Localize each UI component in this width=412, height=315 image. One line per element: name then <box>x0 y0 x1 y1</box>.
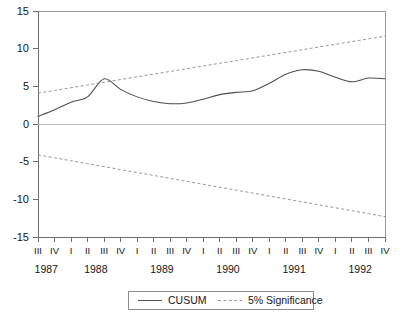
x-year-label: 1990 <box>216 263 240 275</box>
x-quarter-label: IV <box>182 245 192 256</box>
x-year-label: 1988 <box>84 263 108 275</box>
data-series-layer <box>38 36 385 217</box>
x-quarter-label: IV <box>248 245 258 256</box>
x-quarter-label: III <box>100 245 108 256</box>
y-tick-label: 15 <box>17 5 29 17</box>
x-quarter-label: III <box>365 245 373 256</box>
x-axis-year-labels: 198719881989199019911992 <box>35 263 372 275</box>
x-year-label: 1987 <box>35 263 59 275</box>
series-cusum <box>38 70 385 117</box>
y-tick-label: -10 <box>13 193 29 205</box>
x-quarter-label: III <box>166 245 174 256</box>
x-quarter-label: IV <box>50 245 60 256</box>
x-quarter-label: IV <box>116 245 126 256</box>
series-5-significance <box>38 36 385 93</box>
x-quarter-label: II <box>85 245 90 256</box>
y-axis-ticks <box>33 11 38 237</box>
x-quarter-label: II <box>349 245 354 256</box>
y-tick-label: 0 <box>23 118 29 130</box>
y-axis-tick-labels: 151050-5-10-15 <box>13 5 29 243</box>
x-axis-quarter-labels: IIIIVIIIIIIIVIIIIIIIVIIIIIIIVIIIIIIIVIII… <box>34 245 390 256</box>
x-quarter-label: IV <box>381 245 391 256</box>
x-year-label: 1992 <box>349 263 373 275</box>
x-quarter-label: II <box>283 245 288 256</box>
series-5-significance-lower <box>38 155 385 217</box>
x-quarter-label: I <box>70 245 73 256</box>
x-quarter-label: III <box>298 245 306 256</box>
legend-label-significance: 5% Significance <box>248 294 323 306</box>
x-axis-ticks <box>38 237 385 242</box>
x-quarter-label: I <box>334 245 337 256</box>
x-quarter-label: II <box>217 245 222 256</box>
x-quarter-label: III <box>34 245 42 256</box>
x-quarter-label: I <box>268 245 271 256</box>
x-year-label: 1989 <box>150 263 174 275</box>
legend-label-cusum: CUSUM <box>168 294 207 306</box>
legend: CUSUM 5% Significance <box>129 292 323 310</box>
x-quarter-label: I <box>136 245 139 256</box>
y-tick-label: 5 <box>23 80 29 92</box>
x-quarter-label: III <box>232 245 240 256</box>
y-tick-label: 10 <box>17 42 29 54</box>
x-year-label: 1991 <box>282 263 306 275</box>
x-quarter-label: II <box>151 245 156 256</box>
cusum-chart: 151050-5-10-15 IIIIVIIIIIIIVIIIIIIIVIIII… <box>0 0 412 315</box>
x-quarter-label: IV <box>314 245 324 256</box>
chart-canvas: 151050-5-10-15 IIIIVIIIIIIIVIIIIIIIVIIII… <box>0 0 412 315</box>
x-quarter-label: I <box>202 245 205 256</box>
y-tick-label: -5 <box>19 155 29 167</box>
y-tick-label: -15 <box>13 231 29 243</box>
